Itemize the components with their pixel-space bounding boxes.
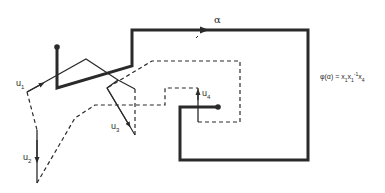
path-dashed (27, 61, 240, 183)
alpha-label: α (214, 15, 221, 25)
end-dot (215, 104, 221, 110)
diagram-canvas (0, 0, 385, 193)
start-dot (54, 44, 60, 50)
u1-arrow (27, 84, 42, 92)
u4-label: u4 (202, 89, 210, 100)
u1-label: u1 (16, 79, 24, 90)
u2-label: u2 (23, 153, 31, 164)
alpha-arrow-icon (200, 27, 209, 34)
u3-arrow (107, 88, 129, 125)
formula: φ(α) = x1x1-1x4 (320, 72, 365, 83)
path-alpha (54, 27, 308, 161)
u3-label: u3 (111, 122, 119, 133)
